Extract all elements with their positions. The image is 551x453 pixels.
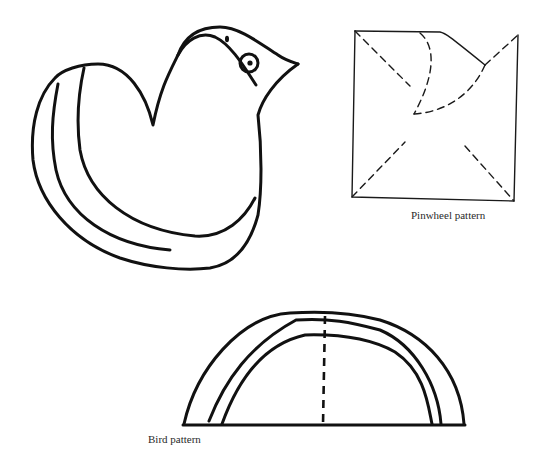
pattern-sheet	[0, 0, 551, 453]
bird-pattern-caption: Bird pattern	[148, 433, 201, 445]
pinwheel-pattern-drawing	[352, 31, 518, 201]
pinwheel-caption: Pinwheel pattern	[411, 209, 485, 221]
bird-pattern-drawing	[183, 312, 465, 425]
bird-drawing	[32, 27, 298, 269]
